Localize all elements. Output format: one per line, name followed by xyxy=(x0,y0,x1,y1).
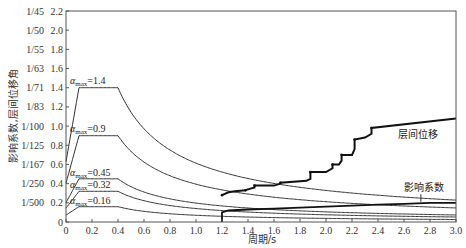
y-tick-label-drift: 1/125 xyxy=(21,140,44,151)
x-axis-title: 周期/s xyxy=(248,234,277,245)
x-tick-label: 0.6 xyxy=(138,225,151,236)
x-tick-label: 0.2 xyxy=(86,225,99,236)
x-tick-label: 0 xyxy=(64,225,69,236)
y-tick-label: 1.6 xyxy=(51,63,64,74)
drift-marker xyxy=(353,138,356,141)
y-tick-label-drift: 1/167 xyxy=(21,159,44,170)
y-tick-label: 2.0 xyxy=(51,25,64,36)
y-tick-label-drift: 1/63 xyxy=(26,63,44,74)
y-tick-label-drift: 1/500 xyxy=(21,197,44,208)
drift-marker xyxy=(279,181,282,184)
y-tick-label: 1.0 xyxy=(51,121,64,132)
spectrum-label: αmax=0.45 xyxy=(70,167,110,180)
plot-lines xyxy=(66,88,456,222)
spectrum-label: αmax=1.4 xyxy=(70,75,105,88)
y-tick-label: 0.2 xyxy=(51,197,64,208)
y-tick-label: 1.8 xyxy=(51,44,64,55)
y-tick-label: 1.2 xyxy=(51,101,64,112)
spectrum-label: αmax=0.9 xyxy=(70,123,105,136)
x-tick-label: 1.0 xyxy=(190,225,203,236)
chart-canvas: 00.20.40.60.81.01.21.41.61.82.02.22.42.6… xyxy=(0,0,466,248)
x-tick-label: 1.2 xyxy=(216,225,229,236)
drift-marker xyxy=(309,171,312,174)
x-tick-label: 3.0 xyxy=(450,225,463,236)
y-tick-label: 2.2 xyxy=(51,6,64,17)
y-tick-label: 0.8 xyxy=(51,140,64,151)
drift-marker xyxy=(340,154,343,157)
x-tick-label: 0.4 xyxy=(112,225,125,236)
y-tick-label-drift: 1/45 xyxy=(26,6,44,17)
y-axis-title: 影响系数,层间位移角 xyxy=(7,69,19,162)
spectrum-label: αmax=0.32 xyxy=(70,179,110,192)
x-tick-label: 1.8 xyxy=(294,225,307,236)
drift-marker xyxy=(253,184,256,187)
x-tick-label: 2.2 xyxy=(346,225,359,236)
series-labels: αmax=1.4αmax=0.9αmax=0.45αmax=0.32αmax=0… xyxy=(70,75,444,208)
plot-frame xyxy=(66,11,456,222)
x-tick-label: 0.8 xyxy=(164,225,177,236)
y-tick-label: 0 xyxy=(58,217,63,228)
y-tick-label-drift: 1/50 xyxy=(26,25,44,36)
spectrum-label: αmax=0.16 xyxy=(70,195,110,208)
y-tick-label-drift: 1/83 xyxy=(26,101,44,112)
y-tick-label: 0.6 xyxy=(51,159,64,170)
y-tick-label: 0.4 xyxy=(51,178,64,189)
x-tick-label: 2.0 xyxy=(320,225,333,236)
y-tick-label-drift: 1/100 xyxy=(21,121,44,132)
drift-marker xyxy=(221,194,224,197)
y-tick-label-drift: 1/250 xyxy=(21,178,44,189)
y-tick-label: 1.4 xyxy=(51,82,64,93)
x-tick-label: 2.6 xyxy=(398,225,411,236)
drift-marker xyxy=(331,163,334,166)
coefficient-annotation: 影响系数 xyxy=(404,181,444,193)
y-tick-label-drift: 1/71 xyxy=(26,82,44,93)
drift-annotation: 层间位移 xyxy=(398,128,438,140)
y-tick-label-drift: 1/55 xyxy=(26,44,44,55)
drift-marker xyxy=(370,127,373,130)
x-tick-label: 2.8 xyxy=(424,225,437,236)
y-axis-ticks: 00.21/5000.41/2500.61/1670.81/1251.01/10… xyxy=(21,6,69,228)
x-tick-label: 2.4 xyxy=(372,225,385,236)
drift-marker xyxy=(244,189,247,192)
